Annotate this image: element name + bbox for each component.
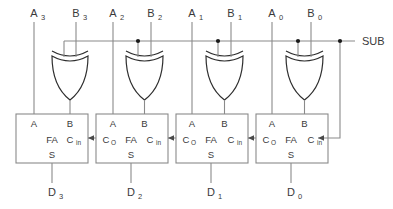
- input-label-b1: B: [227, 7, 234, 19]
- full-adder-stage3-pin-s: S: [49, 149, 55, 160]
- output-label-d3-subscript: 3: [59, 192, 63, 201]
- junction-dot-carry-in: [338, 39, 342, 43]
- full-adder-stage1-pin-cin: C: [228, 134, 235, 145]
- adder-subtractor-diagram: A 3 B 3 A 2 B 2 A 1 B 1 A 0 B 0: [0, 0, 393, 209]
- input-label-b3-subscript: 3: [83, 13, 87, 22]
- input-label-a0: A: [268, 7, 276, 19]
- sub-label: SUB: [362, 35, 385, 47]
- input-labels: A 3 B 3 A 2 B 2 A 1 B 1 A 0 B 0: [30, 7, 322, 22]
- output-label-d2-subscript: 2: [138, 192, 142, 201]
- xor-gate-stage3-arc: [52, 51, 88, 56]
- full-adder-stage0-pin-cout: C: [263, 134, 270, 145]
- input-label-b2: B: [147, 7, 154, 19]
- full-adder-stage2-pin-a: A: [110, 118, 117, 129]
- full-adder-stage1-pin-b: B: [221, 118, 227, 129]
- output-label-d2: D: [127, 186, 135, 198]
- input-label-b0-subscript: 0: [318, 13, 322, 22]
- full-adder-stage0-label: FA: [285, 134, 297, 145]
- output-label-d1-subscript: 1: [218, 192, 222, 201]
- full-adder-stage0-pin-s: S: [288, 149, 294, 160]
- full-adder-stage1-pin-s: S: [208, 149, 214, 160]
- full-adder-stage0-pin-b: B: [301, 118, 307, 129]
- xor-gate-stage1: [206, 50, 243, 114]
- full-adder-stage1: A B C O FA C in S D 1: [168, 114, 248, 201]
- input-label-b1-subscript: 1: [238, 13, 242, 22]
- full-adder-stage1-pin-a: A: [189, 118, 196, 129]
- full-adder-stage1-pin-cout-subscript: O: [191, 139, 196, 146]
- full-adder-stage2-pin-b: B: [141, 118, 147, 129]
- input-label-a1: A: [188, 7, 196, 19]
- xor-gate-stage1-body: [206, 56, 243, 100]
- output-label-d1: D: [207, 186, 215, 198]
- xor-gate-stage2: [126, 50, 163, 114]
- full-adder-stage2-pin-cout-subscript: O: [111, 139, 116, 146]
- junction-dot-stage2: [136, 39, 140, 43]
- input-label-a2-subscript: 2: [120, 13, 124, 22]
- carry-arrowhead-stage2: [168, 135, 174, 141]
- input-label-a0-subscript: 0: [279, 13, 283, 22]
- junction-dot-stage1: [216, 39, 220, 43]
- input-label-a2: A: [109, 7, 117, 19]
- xor-gate-stage0: [286, 50, 323, 114]
- input-label-a3-subscript: 3: [41, 13, 45, 22]
- full-adder-stage2-pin-cin-subscript: in: [156, 139, 161, 146]
- full-adder-stage0: A B C O FA C in S D 0: [248, 114, 328, 201]
- full-adder-stage0-pin-cin-subscript: in: [317, 139, 322, 146]
- xor-gate-stage0-body: [286, 56, 323, 100]
- full-adder-stage2-label: FA: [125, 134, 137, 145]
- full-adder-stage3-pin-b: B: [67, 118, 73, 129]
- carry-arrowhead-stage3: [88, 135, 94, 141]
- full-adder-stage0-pin-a: A: [269, 118, 276, 129]
- full-adder-stage1-pin-cin-subscript: in: [237, 139, 242, 146]
- full-adder-stage1-label: FA: [205, 134, 217, 145]
- xor-gate-stage0-arc: [286, 51, 323, 56]
- output-label-d0-subscript: 0: [298, 192, 302, 201]
- full-adder-stage2: A B C O FA C in S D 2: [88, 114, 168, 201]
- xor-gate-stage2-body: [126, 56, 163, 100]
- full-adder-stage3-pin-cin: C: [67, 134, 74, 145]
- full-adder-stage3: A B FA C in S D 3: [16, 114, 88, 201]
- xor-gate-stage1-arc: [206, 51, 243, 56]
- input-label-a3: A: [30, 7, 38, 19]
- carry-arrowhead-stage1: [248, 135, 254, 141]
- full-adder-stage2-pin-s: S: [128, 149, 134, 160]
- xor-gate-stage3: [52, 50, 88, 114]
- input-label-b0: B: [307, 7, 314, 19]
- xor-gate-stage2-arc: [126, 51, 163, 56]
- input-label-b3: B: [72, 7, 79, 19]
- full-adder-stage1-pin-cout: C: [183, 134, 190, 145]
- sub-to-carry-in-wire: [318, 41, 340, 138]
- full-adder-stage3-pin-a: A: [31, 118, 38, 129]
- full-adder-stage0-pin-cin: C: [308, 134, 315, 145]
- full-adder-stage2-pin-cout: C: [103, 134, 110, 145]
- xor-gate-stage3-body: [52, 56, 88, 100]
- output-label-d0: D: [287, 186, 295, 198]
- input-label-b2-subscript: 2: [158, 13, 162, 22]
- full-adder-stage3-label: FA: [46, 134, 58, 145]
- full-adder-stage0-pin-cout-subscript: O: [271, 139, 276, 146]
- output-label-d3: D: [48, 186, 56, 198]
- b-input-wires: [76, 22, 311, 50]
- input-label-a1-subscript: 1: [199, 13, 203, 22]
- full-adder-stage2-pin-cin: C: [147, 134, 154, 145]
- full-adder-stage3-pin-cin-subscript: in: [76, 139, 81, 146]
- junction-dot-stage0: [296, 39, 300, 43]
